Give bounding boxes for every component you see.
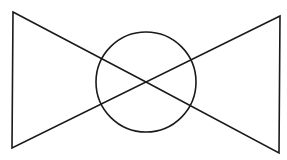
diagram-canvas — [0, 0, 287, 160]
valve-symbol-diagram — [0, 0, 287, 160]
